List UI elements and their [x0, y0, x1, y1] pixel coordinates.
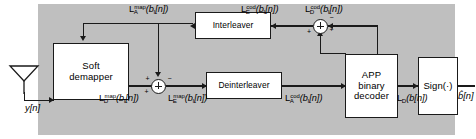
label-ld-map: LDmap(bI[n]): [99, 93, 139, 104]
wire-la-map-to-bottom-adder: [158, 23, 159, 72]
wire-top-adder-to-interleaver: [271, 25, 313, 26]
wire-la-map-into-demapper: [83, 23, 84, 37]
adder-bottom-minus-right: −: [168, 75, 172, 82]
arrow-la-map-into-demapper: [80, 36, 86, 41]
wire-la-map-feedback: [83, 23, 193, 24]
wire-deinterleaver-to-decoder: [282, 85, 345, 86]
soft-demapper-block[interactable]: Soft demapper: [53, 43, 129, 100]
app-binary-decoder-block[interactable]: APP binary decoder: [345, 54, 398, 118]
adder-bottom-plus-bottom: +: [145, 88, 149, 95]
label-input-signal: y[n]: [25, 102, 40, 113]
wire-adder-to-deinterleaver: [166, 85, 206, 86]
arrow-ld-cod-to-top-adder: [328, 23, 333, 29]
adder-top-plus-bottom: +: [307, 28, 311, 35]
adder-top: [313, 19, 328, 34]
interleaver-block[interactable]: Interleaver: [195, 12, 271, 39]
label-ld-b: LD(b[n]): [397, 93, 428, 104]
decoder-label-line3: decoder: [354, 91, 389, 102]
deinterleaver-block[interactable]: Deinterleaver: [206, 72, 282, 99]
label-la-cod: LAcod(bI[n]): [285, 93, 322, 104]
soft-demapper-label-line2: demapper: [69, 72, 113, 83]
adder-bottom: [151, 79, 166, 94]
wire-ld-cod-riser: [377, 25, 378, 54]
label-le-cod: LEcod(bI[n]): [241, 4, 278, 15]
label-le-map: LEmap(bI[n]): [168, 93, 207, 104]
sign-label: Sign(·): [423, 81, 452, 92]
arrow-top-adder-to-interleaver: [271, 23, 276, 29]
label-la-map: LAmap(bI[n]): [129, 4, 168, 15]
adder-bottom-plus-left: +: [146, 75, 150, 82]
antenna-icon: [7, 62, 41, 96]
wire-sign-output: [458, 85, 475, 86]
wire-ld-cod-to-top-adder: [328, 25, 378, 26]
interleaver-label: Interleaver: [213, 21, 254, 30]
wire-decoder-top-branch: [320, 53, 346, 54]
receiver-block-diagram: y[n] Soft demapper + − + Deinterleaver A…: [0, 0, 476, 139]
wire-demapper-to-adder: [129, 85, 152, 86]
label-ld-cod: LDcod(bI[n]): [305, 4, 343, 15]
arrow-la-map-to-bottom-adder: [155, 72, 161, 77]
soft-demapper-label-line1: Soft: [69, 61, 113, 72]
deinterleaver-label: Deinterleaver: [218, 81, 269, 90]
sign-block[interactable]: Sign(·): [418, 57, 458, 115]
label-output-signal: b̂[n]: [458, 90, 474, 101]
arrow-interleaver-out: [190, 23, 195, 29]
